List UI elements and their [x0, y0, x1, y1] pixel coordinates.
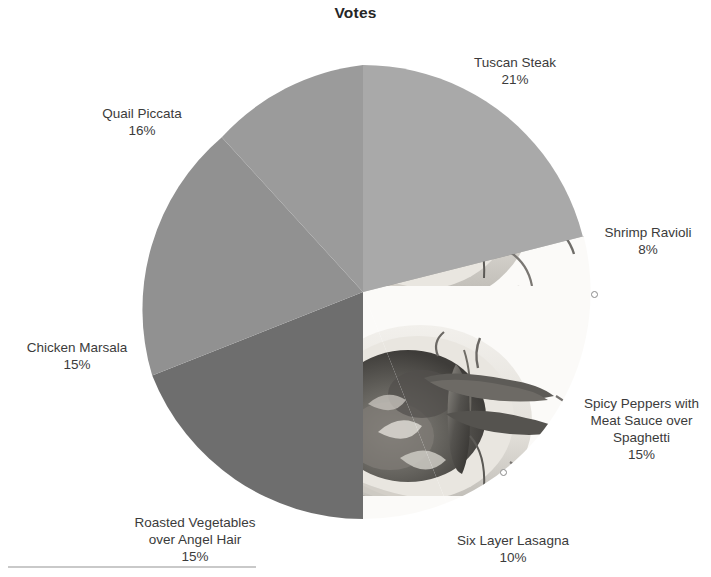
slice-label-shrimp-ravioli: Shrimp Ravioli 8% [588, 207, 708, 275]
slice-label-text: Quail Piccata [102, 106, 182, 121]
slice-label-text: Six Layer Lasagna [457, 533, 569, 548]
selection-handle-bottom[interactable] [500, 469, 507, 476]
slice-label-text: Roasted Vegetables over Angel Hair [135, 515, 256, 547]
bottom-divider [8, 566, 256, 568]
slice-label-percent: 16% [67, 122, 217, 139]
slice-label-text: Chicken Marsala [27, 340, 128, 355]
chart-canvas: Votes [0, 0, 711, 577]
slice-label-chicken-marsala: Chicken Marsala 15% [2, 322, 152, 390]
slice-label-tuscan-steak: Tuscan Steak 21% [420, 37, 610, 105]
slice-label-text: Shrimp Ravioli [604, 225, 691, 240]
slice-label-percent: 15% [2, 356, 152, 373]
slice-label-percent: 15% [105, 548, 285, 565]
slice-label-percent: 10% [428, 549, 598, 566]
selection-handle-top-right[interactable] [591, 291, 598, 298]
slice-label-text: Tuscan Steak [474, 55, 556, 70]
slice-label-quail-piccata: Quail Piccata 16% [67, 88, 217, 156]
slice-label-roasted-vegetables: Roasted Vegetables over Angel Hair 15% [105, 497, 285, 577]
slice-label-percent: 8% [588, 241, 708, 258]
slice-label-spicy-peppers: Spicy Peppers with Meat Sauce over Spagh… [572, 378, 711, 480]
slice-label-percent: 15% [572, 446, 711, 463]
slice-label-six-layer-lasagna: Six Layer Lasagna 10% [428, 515, 598, 577]
slice-label-percent: 21% [420, 71, 610, 88]
slice-label-text: Spicy Peppers with Meat Sauce over Spagh… [584, 396, 699, 445]
